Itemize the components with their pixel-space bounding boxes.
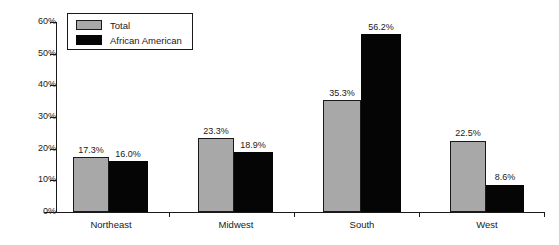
bar-african-american-south[interactable] [361, 34, 401, 212]
legend-item-total[interactable]: Total [76, 18, 192, 32]
y-tick-label: 20% [14, 144, 56, 153]
bar-total-northeast[interactable] [73, 157, 109, 212]
chart-legend: Total African American [67, 13, 193, 50]
bar-label-african-american-south: 56.2% [353, 22, 409, 32]
x-tick-divider [294, 212, 295, 217]
x-tick-divider [169, 212, 170, 217]
y-tick-label: 40% [14, 80, 56, 89]
y-tick-label: 30% [14, 112, 56, 121]
bar-african-american-west[interactable] [486, 185, 524, 212]
y-tick-label: 10% [14, 175, 56, 184]
y-tick-label: 50% [14, 49, 56, 58]
legend-label-total: Total [110, 20, 130, 31]
x-axis-label-northeast: Northeast [66, 219, 156, 230]
legend-item-african-american[interactable]: African American [76, 33, 192, 47]
bar-label-total-west: 22.5% [440, 128, 496, 138]
y-axis-line [56, 22, 57, 212]
black-swatch-icon [76, 35, 102, 45]
bar-label-african-american-northeast: 16.0% [100, 149, 156, 159]
bar-label-total-midwest: 23.3% [188, 126, 244, 136]
x-tick-divider [419, 212, 420, 217]
legend-label-african-american: African American [110, 35, 182, 46]
y-tick-label: 60% [14, 17, 56, 26]
bar-label-african-american-west: 8.6% [477, 172, 533, 182]
plot-area: 60% 50% 40% 30% 20% 10% 0% [0, 0, 559, 245]
bar-african-american-northeast[interactable] [109, 161, 148, 212]
gray-swatch-icon [76, 20, 102, 30]
bar-african-american-midwest[interactable] [234, 152, 273, 212]
x-axis-label-midwest: Midwest [191, 219, 281, 230]
x-axis-label-south: South [317, 219, 407, 230]
bar-label-african-american-midwest: 18.9% [225, 140, 281, 150]
bar-total-south[interactable] [323, 100, 361, 212]
x-tick-end [544, 212, 545, 217]
bar-chart: 60% 50% 40% 30% 20% 10% 0% [0, 0, 559, 245]
x-axis-label-west: West [442, 219, 532, 230]
